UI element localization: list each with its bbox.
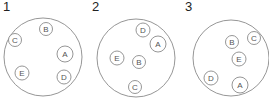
svg-text:E: E <box>236 55 241 64</box>
item-c: C <box>9 34 22 47</box>
item-e: E <box>15 66 29 80</box>
panel-number: 1 <box>3 0 10 14</box>
item-c: C <box>129 81 142 94</box>
item-a: A <box>232 77 248 93</box>
item-d: D <box>57 70 71 84</box>
svg-text:C: C <box>132 83 138 92</box>
svg-text:D: D <box>140 26 146 35</box>
panel-number: 3 <box>185 0 192 14</box>
item-b: B <box>226 36 239 49</box>
panel-1: 1 B C A E D <box>3 0 82 96</box>
item-b: B <box>40 23 53 36</box>
svg-text:D: D <box>61 73 67 82</box>
svg-text:B: B <box>229 38 234 47</box>
item-a: A <box>150 36 166 52</box>
item-c: C <box>248 32 261 45</box>
item-e: E <box>232 52 246 66</box>
svg-text:C: C <box>251 34 257 43</box>
svg-text:B: B <box>136 58 141 67</box>
svg-text:E: E <box>19 69 24 78</box>
diagram-canvas: 1 B C A E D 2 D A E B C 3 B C E D A <box>0 0 269 107</box>
panel-number: 2 <box>92 0 99 14</box>
svg-text:D: D <box>208 74 214 83</box>
svg-text:A: A <box>155 40 161 49</box>
panel-3: 3 B C E D A <box>185 0 269 96</box>
svg-text:A: A <box>62 50 68 59</box>
item-d: D <box>204 71 218 85</box>
item-b: B <box>133 56 146 69</box>
svg-text:C: C <box>12 36 18 45</box>
svg-text:A: A <box>237 81 243 90</box>
item-e: E <box>110 51 124 65</box>
item-d: D <box>136 23 150 37</box>
container-circle <box>193 20 269 96</box>
svg-text:B: B <box>43 25 48 34</box>
svg-text:E: E <box>114 54 119 63</box>
panel-2: 2 D A E B C <box>92 0 175 97</box>
item-a: A <box>57 46 73 62</box>
